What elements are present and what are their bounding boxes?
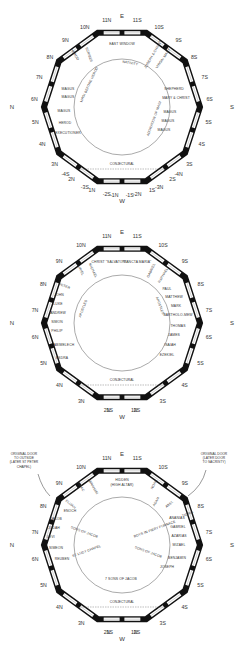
- position-label: 9S: [182, 480, 189, 486]
- position-label: 5S: [197, 582, 204, 588]
- position-label: 3S: [160, 620, 167, 626]
- position-label: 7S: [202, 74, 209, 80]
- figure-label-magus-l3: MAGUS: [58, 109, 72, 113]
- figure-label-herod-l: HEROD: [59, 121, 72, 125]
- position-label: 7N: [32, 307, 39, 313]
- position-label: 1S: [107, 629, 114, 635]
- figure-label-adam: ADAM: [152, 496, 161, 507]
- position-label: 1S: [107, 407, 114, 413]
- figure-label-sons-of-jacob-r: SONS OF JACOB: [134, 545, 163, 559]
- figure-label-isaiah: ISAIAH: [164, 343, 176, 347]
- position-label: 10S: [155, 24, 165, 30]
- position-label: 10N: [80, 24, 90, 30]
- position-label: 3S: [160, 398, 167, 404]
- figure-label-mark: MARK: [171, 304, 182, 308]
- figure-label-enoch: ENOCH: [64, 509, 77, 513]
- position-label: 11S: [133, 233, 142, 239]
- figure-label-azarias: AZARIAS: [171, 534, 187, 538]
- figure-label-magi-before-herod: MAGI BEFORE HEROD: [79, 66, 99, 103]
- position-label: 6N: [32, 556, 39, 562]
- figure-label-mary-christ: MARY & CHRIST: [162, 96, 190, 100]
- position-label: 9S: [175, 37, 182, 43]
- position-label: 9N: [62, 37, 69, 43]
- position-label: 5N: [32, 119, 39, 125]
- position-label: 6S: [206, 96, 213, 102]
- figure-label-mizael: MIZAEL: [173, 543, 186, 547]
- figure-label-michael: MICHAEL: [88, 263, 98, 279]
- figure-label-simon: SIMON: [51, 320, 63, 324]
- compass-west: W: [119, 198, 125, 204]
- position-label: -1N: [110, 192, 119, 198]
- position-label: 7N: [36, 74, 43, 80]
- position-label: -3S: [81, 184, 90, 190]
- position-label: 9S: [182, 258, 189, 264]
- figure-label-philip: PHILIP: [51, 329, 63, 333]
- figure-label-seven-sons-of-jacob: 7 SONS OF JACOB: [105, 577, 137, 581]
- figure-label-sancta-maria: "SANCTA MARIA": [123, 260, 152, 264]
- position-label: 10S: [158, 242, 168, 248]
- figure-label-judah: JUDAH: [48, 526, 60, 530]
- position-label: -3N: [155, 184, 164, 190]
- door-note-right: TO SACRISTY): [202, 460, 225, 464]
- figure-label-bartholomew: BARTHOLO-MEW: [163, 313, 193, 317]
- position-label: 5N: [40, 582, 47, 588]
- position-label: 4N: [56, 604, 63, 610]
- church-window-plans: EWNS11N10N9N8N7N6N5N4N3N2N1N-1N-2N-3N-4N…: [0, 0, 244, 654]
- compass-west: W: [119, 636, 125, 642]
- inner-arc: [74, 275, 170, 371]
- position-label: 4S: [181, 604, 188, 610]
- conjectural-note: CONJECTURAL: [110, 600, 135, 604]
- position-label: 9N: [56, 258, 63, 264]
- position-label: 6S: [206, 556, 213, 562]
- position-label: 3N: [51, 161, 58, 167]
- figure-label-levi: LEVI: [47, 535, 55, 539]
- position-label: 10S: [158, 464, 168, 470]
- position-label: 8S: [198, 281, 205, 287]
- plan-2: EWNS11N10N9N8N7N6N5N4N3N2N1N11S10S9S8S7S…: [10, 229, 234, 420]
- position-label: 5S: [205, 119, 212, 125]
- figure-label-reuben: REUBEN: [55, 557, 70, 561]
- position-label: 3S: [186, 161, 193, 167]
- position-label: -1S: [126, 192, 135, 198]
- figure-label-scribes: SCRIBES: [84, 47, 93, 64]
- position-label: 3N: [78, 620, 85, 626]
- figure-label-thomas: THOMAS: [170, 324, 186, 328]
- position-label: 4S: [181, 382, 188, 388]
- door-note-left: CHAPEL): [17, 465, 31, 469]
- figure-label-nativity: NATIVITY: [122, 60, 139, 67]
- figure-label-luke: LUKE: [53, 302, 63, 306]
- figure-label-high-altar: (HIGH ALTAR): [110, 483, 133, 487]
- conjectural-note: CONJECTURAL: [110, 162, 135, 166]
- position-label: 8S: [191, 54, 198, 60]
- position-label: 1N: [89, 187, 96, 193]
- position-label: 2S: [169, 176, 176, 182]
- figure-label-matthew: MATTHEW: [165, 295, 183, 299]
- position-label: 8N: [47, 54, 54, 60]
- figure-label-paul: PAUL: [162, 287, 171, 291]
- position-label: 4S: [199, 141, 206, 147]
- figure-label-executioner: EXECUTIONER: [55, 131, 81, 135]
- position-label: 5S: [197, 360, 204, 366]
- position-label: 11N: [102, 455, 111, 461]
- conjectural-note: CONJECTURAL: [110, 378, 135, 382]
- plan-1: EWNS11N10N9N8N7N6N5N4N3N2N1N-1N-2N-3N-4N…: [10, 13, 234, 204]
- position-label: 8N: [40, 281, 47, 287]
- position-label: 8S: [198, 503, 205, 509]
- figure-label-joseph: JOSEPH: [160, 565, 175, 569]
- figure-label-jacob: JACOB: [50, 517, 62, 521]
- figure-label-shepherd: SHEPHERD: [164, 87, 184, 91]
- position-label: 4N: [39, 141, 46, 147]
- figure-label-gabriel: GABRIEL: [146, 263, 156, 279]
- compass-north: N: [10, 542, 14, 548]
- compass-east: E: [120, 229, 124, 235]
- position-label: 11S: [133, 17, 142, 23]
- plan-stage: EWNS11N10N9N8N7N6N5N4N3N2N1N-1N-2N-3N-4N…: [0, 0, 244, 654]
- position-label: 7N: [32, 529, 39, 535]
- figure-label-james: JAMES: [168, 333, 180, 337]
- position-label: 3N: [78, 398, 85, 404]
- figure-label-st-lucy-chapel: ST LUCY CHAPEL: [72, 544, 102, 558]
- figure-label-simeon: SIMEON: [49, 546, 63, 550]
- position-label: 7S: [206, 307, 213, 313]
- figure-label-peter: PETER: [58, 282, 71, 290]
- compass-north: N: [10, 104, 14, 110]
